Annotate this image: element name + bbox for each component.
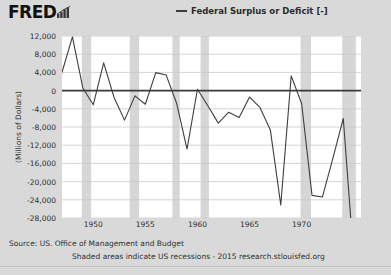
y-axis-tick-label: 8,000: [35, 50, 56, 59]
chart-legend: Federal Surplus or Deficit [-]: [176, 6, 328, 16]
x-axis-tick-label: 1970: [292, 220, 311, 229]
plot-area: [62, 36, 361, 218]
legend-swatch-series: [176, 10, 187, 12]
fred-chart-screenshot: FRED Federal Surplus or Deficit [-] (Mil…: [0, 0, 391, 275]
x-axis: 19501955196019651970: [62, 220, 361, 234]
footer-divider: [0, 266, 391, 267]
recession-note-text: Shaded areas indicate US recessions - 20…: [72, 252, 325, 261]
y-axis-tick-label: 0: [51, 86, 56, 95]
y-axis-tick-label: -8,000: [32, 123, 56, 132]
x-axis-tick-label: 1955: [136, 220, 155, 229]
y-axis-tick-label: -16,000: [27, 159, 56, 168]
y-axis-tick-label: -20,000: [27, 177, 56, 186]
source-text: Source: US. Office of Management and Bud…: [9, 239, 184, 248]
y-axis-tick-label: -28,000: [27, 214, 56, 223]
chart-header: FRED Federal Surplus or Deficit [-]: [0, 0, 391, 30]
legend-label: Federal Surplus or Deficit [-]: [191, 6, 328, 16]
y-axis-tick-label: -24,000: [27, 195, 56, 204]
y-axis-tick-label: 4,000: [35, 68, 56, 77]
y-axis: 12,0008,0004,0000-4,000-8,000-12,000-16,…: [0, 36, 60, 218]
y-axis-tick-label: -12,000: [27, 141, 56, 150]
y-axis-tick-label: -4,000: [32, 104, 56, 113]
bar-chart-icon: [57, 6, 73, 18]
fred-logo[interactable]: FRED: [8, 3, 56, 21]
chart-canvas: [62, 36, 361, 218]
y-axis-tick-label: 12,000: [30, 32, 56, 41]
x-axis-tick-label: 1950: [84, 220, 103, 229]
x-axis-tick-label: 1965: [240, 220, 259, 229]
x-axis-tick-label: 1960: [188, 220, 207, 229]
